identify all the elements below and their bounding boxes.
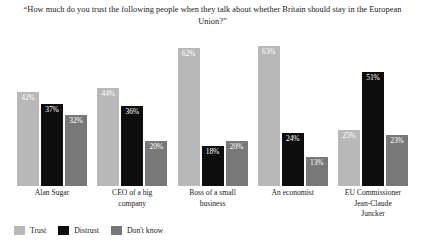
bar-value-label: 18% [202,148,224,156]
chart-title: “How much do you trust the following peo… [22,4,403,27]
category-label-line: Alan Sugar [14,188,90,199]
bar-group: 63%24%13% [255,30,331,186]
bar-value-label: 20% [226,143,248,151]
bar: 24% [282,133,304,186]
bar-value-label: 36% [121,108,143,116]
category-label-line: CEO of a big [94,188,170,199]
legend-item[interactable]: Don't know [111,226,163,235]
bar-value-label: 44% [97,90,119,98]
category-label: An economist [255,188,331,199]
bar-value-label: 25% [338,132,360,140]
bar: 42% [17,92,39,186]
legend-label: Distrust [74,226,99,235]
bar-value-label: 24% [282,135,304,143]
bar: 25% [338,130,360,186]
bar-group: 42%37%32% [14,30,90,186]
bar: 51% [362,72,384,186]
category-label-line: Jean-Claude [335,199,411,210]
legend-swatch-icon [58,226,69,235]
category-label: Alan Sugar [14,188,90,199]
bar: 32% [65,115,87,186]
category-label: CEO of a bigcompany [94,188,170,209]
legend-swatch-icon [14,226,25,235]
chart-legend: TrustDistrustDon't know [14,226,175,235]
bar-value-label: 20% [145,143,167,151]
bar: 13% [306,157,328,186]
category-label-line: EU Commissioner [335,188,411,199]
bar-value-label: 37% [41,106,63,114]
bar: 37% [41,104,63,186]
bar-value-label: 13% [306,159,328,167]
bar: 44% [97,88,119,186]
legend-item[interactable]: Trust [14,226,46,235]
bar-group: 25%51%23% [335,30,411,186]
category-label-line: business [175,199,251,210]
legend-swatch-icon [111,226,122,235]
bar-value-label: 23% [386,137,408,145]
bar: 20% [145,141,167,186]
legend-label: Don't know [127,226,163,235]
bar-group: 62%18%20% [175,30,251,186]
legend-label: Trust [30,226,46,235]
category-label-line: company [94,199,170,210]
bar: 62% [178,48,200,186]
bar-value-label: 63% [258,48,280,56]
bar-value-label: 32% [65,117,87,125]
category-label: Boss of a smallbusiness [175,188,251,209]
bar: 23% [386,135,408,186]
bar-value-label: 62% [178,50,200,58]
category-label: EU CommissionerJean-ClaudeJuncker [335,188,411,220]
bar: 18% [202,146,224,186]
bar: 63% [258,46,280,186]
bar-chart: “How much do you trust the following peo… [0,0,425,244]
category-label-line: Juncker [335,209,411,220]
legend-item[interactable]: Distrust [58,226,99,235]
bar-value-label: 51% [362,74,384,82]
category-label-line: Boss of a small [175,188,251,199]
plot-area: 42%37%32%44%36%20%62%18%20%63%24%13%25%5… [0,30,425,186]
chart-title-line-1: “How much do you trust the following peo… [24,5,355,14]
category-label-line: An economist [255,188,331,199]
bar: 36% [121,106,143,186]
bar-value-label: 42% [17,94,39,102]
bar: 20% [226,141,248,186]
bar-group: 44%36%20% [94,30,170,186]
